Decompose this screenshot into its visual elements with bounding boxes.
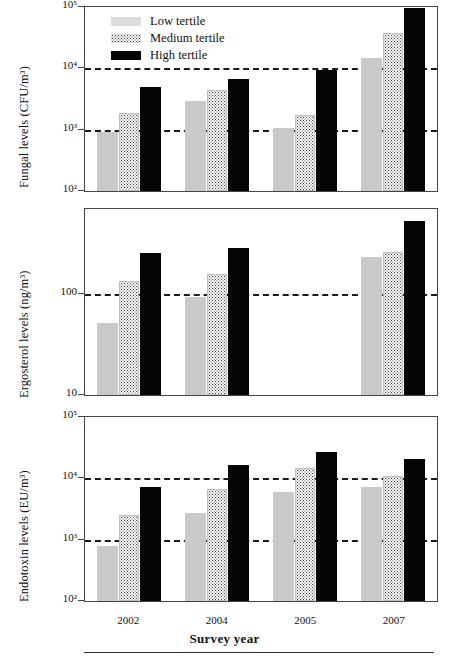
- bar-fungal-2002-low: [97, 132, 118, 191]
- bar-fungal-2005-high: [316, 70, 337, 191]
- bar-fungal-2005-medium: [295, 115, 316, 191]
- x-tick-mark: [305, 395, 306, 396]
- y-axis-title-ergosterol: Ergosterol levels (ng/m³): [17, 270, 32, 398]
- bar-fungal-2004-medium: [207, 90, 228, 191]
- y-tick-mark: [78, 67, 85, 68]
- plot-area-endotoxin: [84, 416, 438, 602]
- bar-ergosterol-2004-low: [185, 297, 206, 395]
- x-tick-mark: [305, 601, 306, 602]
- bar-endotoxin-2005-medium: [295, 468, 316, 601]
- footer-rule: [84, 652, 434, 653]
- legend-swatch-medium-icon: [111, 34, 141, 43]
- bar-endotoxin-2002-medium: [119, 515, 140, 601]
- x-tick-mark: [129, 601, 130, 602]
- bar-endotoxin-2004-low: [185, 513, 206, 601]
- x-tick-mark: [129, 191, 130, 192]
- x-tick-label-2004: 2004: [206, 614, 228, 626]
- y-tick-mark: [78, 394, 85, 395]
- y-tick-mark: [78, 539, 85, 540]
- figure-root: Fungal levels (CFU/m³) Low tertile Mediu…: [0, 0, 449, 657]
- bar-endotoxin-2004-high: [228, 465, 249, 601]
- bar-ergosterol-2007-medium: [383, 252, 404, 395]
- x-tick-mark: [129, 395, 130, 396]
- y-tick-label: 10⁴: [62, 469, 77, 481]
- legend-swatch-high-icon: [111, 51, 141, 60]
- x-tick-label-2005: 2005: [294, 614, 316, 626]
- bar-endotoxin-2002-low: [97, 546, 118, 601]
- bar-endotoxin-2004-medium: [207, 489, 228, 601]
- bar-fungal-2005-low: [273, 128, 294, 191]
- x-axis-title: Survey year: [0, 631, 449, 647]
- x-tick-mark: [217, 395, 218, 396]
- y-tick-mark: [78, 6, 85, 7]
- legend-item-high: High tertile: [111, 47, 225, 63]
- legend-label-medium: Medium tertile: [150, 31, 225, 46]
- bar-endotoxin-2007-medium: [383, 476, 404, 601]
- x-tick-mark: [393, 395, 394, 396]
- x-tick-label-2002: 2002: [117, 614, 139, 626]
- bar-fungal-2002-medium: [119, 113, 140, 191]
- bar-fungal-2004-low: [185, 101, 206, 191]
- bar-fungal-2004-high: [228, 79, 249, 191]
- plot-area-ergosterol: [84, 208, 438, 396]
- x-tick-label-2007: 2007: [383, 614, 405, 626]
- x-axis-tick-labels: 2002200420052007: [84, 614, 438, 630]
- y-tick-label: 10³: [63, 531, 77, 543]
- bar-endotoxin-2005-high: [316, 452, 337, 601]
- legend: Low tertile Medium tertile High tertile: [111, 13, 225, 64]
- legend-item-low: Low tertile: [111, 13, 225, 29]
- panel-fungal: Fungal levels (CFU/m³) Low tertile Mediu…: [0, 0, 449, 197]
- x-tick-mark: [305, 191, 306, 192]
- y-tick-label: 10⁵: [62, 408, 77, 420]
- bar-ergosterol-2002-low: [97, 323, 118, 395]
- x-tick-mark: [217, 601, 218, 602]
- bar-endotoxin-2005-low: [273, 492, 294, 601]
- y-tick-label: 10⁵: [62, 0, 77, 10]
- plot-area-fungal: Low tertile Medium tertile High tertile: [84, 6, 438, 192]
- bar-fungal-2007-low: [361, 58, 382, 191]
- y-tick-label: 10³: [63, 121, 77, 133]
- y-tick-mark: [78, 477, 85, 478]
- y-tick-mark: [78, 416, 85, 417]
- bar-fungal-2007-high: [404, 8, 425, 191]
- bar-endotoxin-2002-high: [140, 487, 161, 601]
- bar-ergosterol-2004-medium: [207, 274, 228, 395]
- y-axis-title-fungal: Fungal levels (CFU/m³): [17, 66, 32, 188]
- legend-label-high: High tertile: [150, 48, 207, 63]
- x-tick-mark: [217, 191, 218, 192]
- y-tick-label: 10⁴: [62, 59, 77, 71]
- x-tick-mark: [393, 191, 394, 192]
- bar-fungal-2002-high: [140, 87, 161, 191]
- y-tick-label: 10: [66, 386, 77, 398]
- legend-item-medium: Medium tertile: [111, 30, 225, 46]
- y-tick-mark: [78, 600, 85, 601]
- legend-swatch-low-icon: [111, 17, 141, 26]
- bar-ergosterol-2007-low: [361, 257, 382, 395]
- y-tick-mark: [78, 129, 85, 130]
- x-tick-mark: [393, 601, 394, 602]
- bar-ergosterol-2002-medium: [119, 281, 140, 395]
- bar-endotoxin-2007-low: [361, 487, 382, 601]
- y-tick-label: 10²: [63, 182, 77, 194]
- bar-ergosterol-2002-high: [140, 253, 161, 395]
- y-tick-mark: [78, 293, 85, 294]
- y-axis-title-endotoxin: Endotoxin levels (EU/m³): [17, 470, 32, 602]
- bar-endotoxin-2007-high: [404, 459, 425, 601]
- bar-fungal-2007-medium: [383, 33, 404, 191]
- y-tick-label: 100: [61, 285, 78, 297]
- panel-endotoxin: Endotoxin levels (EU/m³) 10²10³10⁴10⁵: [0, 410, 449, 610]
- y-tick-mark: [78, 190, 85, 191]
- panel-ergosterol: Ergosterol levels (ng/m³) 10100: [0, 202, 449, 405]
- y-tick-label: 10²: [63, 592, 77, 604]
- legend-label-low: Low tertile: [150, 14, 205, 29]
- bar-ergosterol-2004-high: [228, 248, 249, 395]
- bar-ergosterol-2007-high: [404, 221, 425, 395]
